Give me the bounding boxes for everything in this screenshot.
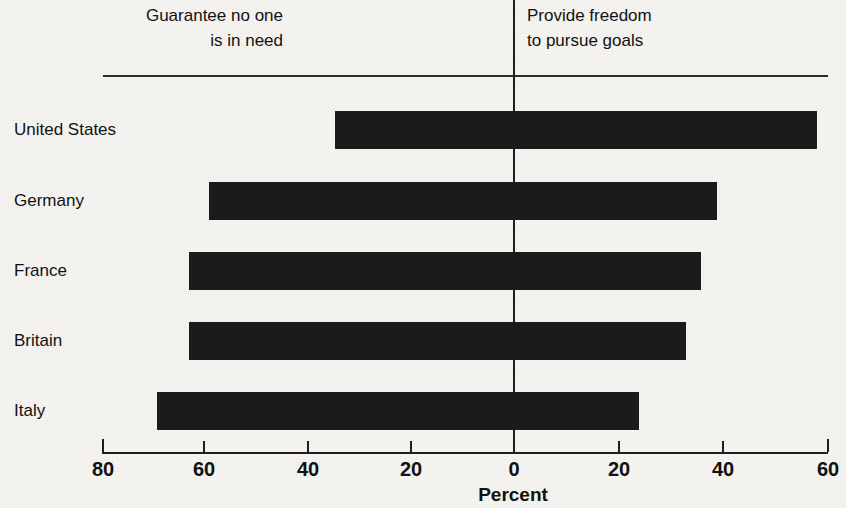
bar-segment-guarantee: [335, 111, 513, 149]
bar-segment-guarantee: [209, 182, 513, 220]
bar-row-label: Britain: [14, 331, 62, 351]
bar-row-label: Italy: [14, 401, 45, 421]
bar-segment-freedom: [513, 252, 701, 290]
bar-row-label: France: [14, 261, 67, 281]
x-axis-tick-label: 60: [817, 458, 839, 481]
x-axis-title: Percent: [478, 484, 548, 506]
x-axis-tick-label: 20: [400, 458, 422, 481]
bar-segment-freedom: [513, 182, 717, 220]
bar-segment-guarantee: [157, 392, 513, 430]
x-axis-tick: [827, 439, 829, 452]
x-axis-tick: [513, 441, 515, 452]
x-axis-tick-label: 0: [508, 458, 519, 481]
bar-rows: United StatesGermanyFranceBritainItaly: [0, 0, 846, 508]
x-axis-line: [102, 452, 828, 454]
bar-row: Germany: [0, 166, 846, 236]
bar-segment-guarantee: [189, 322, 513, 360]
x-axis-tick-label: 60: [193, 458, 215, 481]
x-axis-tick: [410, 441, 412, 452]
bar-row-label: Germany: [14, 191, 84, 211]
bar-row: United States: [0, 95, 846, 165]
chart-figure: Guarantee no one is in need Provide free…: [0, 0, 846, 508]
x-axis-tick: [203, 441, 205, 452]
x-axis-tick: [618, 441, 620, 452]
bar-row: France: [0, 236, 846, 306]
x-axis-tick-label: 40: [297, 458, 319, 481]
x-axis-tick-label: 80: [92, 458, 114, 481]
bar-segment-freedom: [513, 111, 817, 149]
bar-segment-guarantee: [189, 252, 513, 290]
bar-segment-freedom: [513, 392, 639, 430]
bar-row-label: United States: [14, 120, 116, 140]
bar-row: Italy: [0, 376, 846, 446]
x-axis-tick: [722, 441, 724, 452]
x-axis-tick-label: 20: [608, 458, 630, 481]
x-axis-tick-label: 40: [712, 458, 734, 481]
x-axis-tick: [307, 441, 309, 452]
x-axis-tick: [102, 439, 104, 452]
bar-row: Britain: [0, 306, 846, 376]
bar-segment-freedom: [513, 322, 686, 360]
